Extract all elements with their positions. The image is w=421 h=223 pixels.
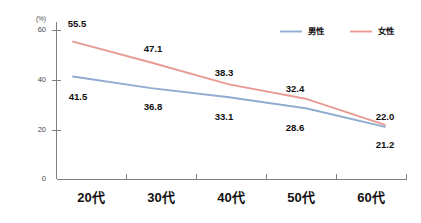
x-tick-label-2: 40代	[217, 190, 244, 205]
point-label-male-2: 33.1	[215, 111, 234, 122]
point-label-male-1: 36.8	[144, 101, 163, 112]
point-label-female-1: 47.1	[144, 43, 163, 54]
y-tick-label-20: 20	[38, 125, 46, 134]
x-tick-label-1: 30代	[147, 190, 174, 205]
legend-label-female: 女性	[378, 26, 395, 36]
point-label-female-0: 55.5	[68, 18, 87, 29]
point-label-female-3: 32.4	[286, 83, 305, 94]
point-label-male-4: 21.2	[376, 139, 395, 150]
line-chart: (%) 60 40 20 0 20代 30代 40代 50代 60代 55.5 …	[0, 0, 421, 223]
x-tick-label-4: 60代	[357, 190, 384, 205]
legend: 男性 女性	[280, 26, 395, 36]
y-axis-unit-label: (%)	[36, 15, 46, 23]
point-label-female-4: 22.0	[376, 111, 395, 122]
legend-label-male: 男性	[308, 26, 325, 36]
chart-container: (%) 60 40 20 0 20代 30代 40代 50代 60代 55.5 …	[0, 0, 421, 223]
point-label-male-0: 41.5	[69, 91, 88, 102]
y-tick-label-60: 60	[38, 25, 46, 34]
point-label-female-2: 38.3	[215, 67, 234, 78]
x-tick-label-0: 20代	[77, 190, 104, 205]
y-tick-label-0: 0	[42, 174, 46, 183]
point-label-male-3: 28.6	[286, 122, 305, 133]
x-tick-label-3: 50代	[287, 190, 314, 205]
y-tick-label-40: 40	[38, 75, 46, 84]
